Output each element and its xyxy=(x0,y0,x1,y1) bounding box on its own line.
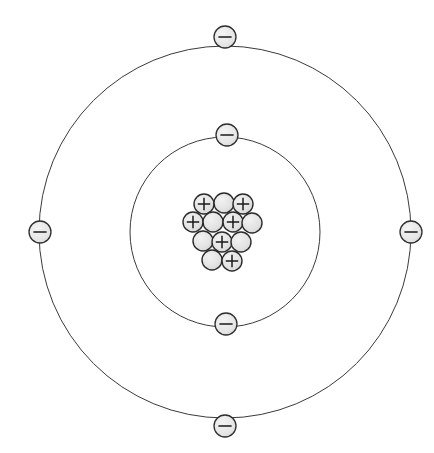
neutron-circle xyxy=(214,193,234,213)
electron xyxy=(216,124,238,146)
neutron-circle xyxy=(202,250,222,270)
neutron-circle xyxy=(231,232,251,252)
electron xyxy=(214,26,236,48)
nucleus-particle-neutron xyxy=(202,250,222,270)
nucleus-particle-proton xyxy=(233,194,253,214)
nucleus-particle-proton xyxy=(212,232,232,252)
nucleus-particle-neutron xyxy=(231,232,251,252)
electron xyxy=(215,313,237,335)
nucleus-particle-proton xyxy=(194,194,214,214)
electron xyxy=(214,415,236,437)
nucleus-particle-proton xyxy=(222,251,242,271)
nucleus-particle-neutron xyxy=(193,231,213,251)
nucleus-particle-neutron xyxy=(242,213,262,233)
atom-diagram xyxy=(0,0,434,453)
electron xyxy=(29,221,51,243)
atom-diagram-canvas xyxy=(0,0,434,453)
neutron-circle xyxy=(193,231,213,251)
nucleus-particle-neutron xyxy=(203,212,223,232)
nucleus-particle-neutron xyxy=(214,193,234,213)
neutron-circle xyxy=(203,212,223,232)
nucleus-particle-proton xyxy=(183,212,203,232)
neutron-circle xyxy=(242,213,262,233)
nucleus-particle-proton xyxy=(223,212,243,232)
electron xyxy=(400,221,422,243)
